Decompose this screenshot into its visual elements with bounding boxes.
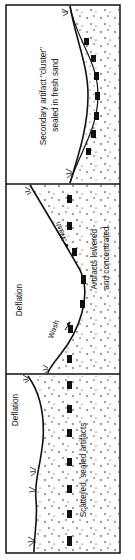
grass-tuft-icon (25, 187, 49, 373)
deflation-label: Deflation (11, 393, 20, 426)
wash-label: Wash (46, 319, 61, 340)
grass-tuft-icon (23, 375, 36, 546)
deflation-diagram: Secondary artifact "cluster" sealed in f… (0, 0, 135, 560)
wash-arrow-icon (62, 240, 70, 330)
caption-secondary-cluster: Secondary artifact "cluster" sealed in f… (39, 45, 60, 145)
grass-tuft-icon (62, 9, 72, 178)
panel-middle: Deflation Wash Wash Artifacts lowered an… (15, 185, 119, 373)
panel-top: Secondary artifact "cluster" sealed in f… (39, 6, 119, 183)
panel-bottom: Deflation Scattered, sealed artifacts (11, 375, 119, 552)
sand-body (28, 376, 119, 552)
deflation-label: Deflation (15, 283, 24, 316)
caption-scattered-sealed: Scattered, sealed artifacts (79, 423, 88, 518)
